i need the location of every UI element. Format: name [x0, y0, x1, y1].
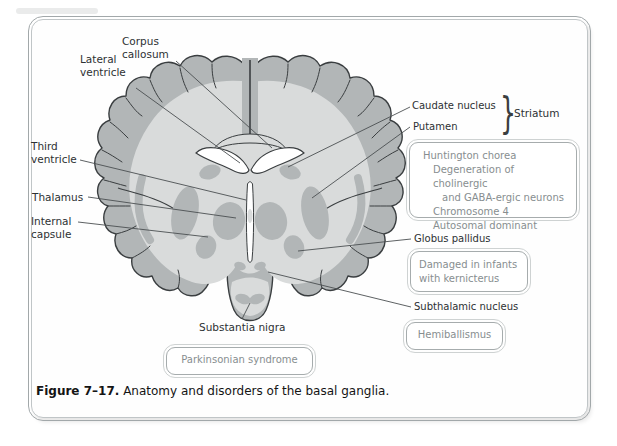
figure-caption-text: Anatomy and disorders of the basal gangl…	[123, 384, 389, 398]
label-putamen: Putamen	[413, 121, 457, 133]
figure-caption: Figure 7–17. Anatomy and disorders of th…	[36, 384, 389, 398]
huntington-chorea-box: Huntington chorea Degeneration of cholin…	[409, 142, 577, 218]
scan-artifact	[16, 8, 98, 14]
huntington-line: Autosomal dominant	[423, 219, 570, 233]
parkinsonian-syndrome-box: Parkinsonian syndrome	[166, 347, 313, 375]
kernicterus-line: Damaged in infants	[419, 258, 519, 272]
figure-caption-label: Figure 7–17.	[36, 384, 119, 398]
label-substantia-nigra: Substantia nigra	[199, 321, 285, 334]
label-third-ventricle: Third ventricle	[31, 140, 83, 166]
hemiballismus-box: Hemiballismus	[406, 322, 503, 350]
kernicterus-line: with kernicterus	[419, 272, 519, 286]
label-thalamus: Thalamus	[32, 191, 83, 204]
label-subthalamic-nucleus: Subthalamic nucleus	[414, 301, 518, 313]
label-striatum: Striatum	[514, 107, 559, 120]
kernicterus-box: Damaged in infants with kernicterus	[410, 251, 528, 292]
huntington-line: and GABA-ergic neurons	[423, 191, 570, 205]
huntington-line: Degeneration of cholinergic	[423, 163, 570, 191]
huntington-line: Huntington chorea	[423, 149, 570, 163]
label-globus-pallidus: Globus pallidus	[414, 233, 490, 245]
label-caudate-nucleus: Caudate nucleus	[412, 100, 496, 112]
label-internal-capsule: Internal capsule	[31, 215, 83, 241]
label-lateral-ventricle: Lateral ventricle	[80, 53, 132, 79]
huntington-line: Chromosome 4	[423, 205, 570, 219]
